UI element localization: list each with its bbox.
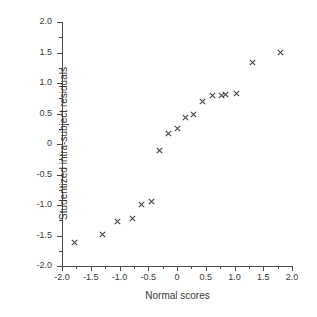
x-axis-minor-tick [278, 266, 279, 269]
data-point-marker [114, 218, 121, 225]
x-axis-minor-tick [134, 266, 135, 269]
y-tick-label: 2.0 [18, 16, 52, 27]
data-point-marker [156, 147, 163, 154]
x-axis-major-tick [263, 266, 264, 271]
data-point-marker [165, 130, 172, 137]
x-axis-minor-tick [191, 266, 192, 269]
x-axis-major-tick [292, 266, 293, 271]
data-point-marker [222, 91, 229, 98]
data-point-marker [71, 239, 78, 246]
x-axis-minor-tick [105, 266, 106, 269]
x-axis-major-tick [206, 266, 207, 271]
data-point-marker [138, 201, 145, 208]
x-axis-major-tick [177, 266, 178, 271]
x-axis-major-tick [91, 266, 92, 271]
x-tick-label: 1.0 [220, 272, 250, 283]
data-point-marker [209, 92, 216, 99]
x-tick-label: 0.5 [191, 272, 221, 283]
y-tick-label: 1.0 [18, 77, 52, 88]
plot-area [62, 22, 292, 266]
y-tick-label: -0.5 [18, 169, 52, 180]
data-point-marker [233, 90, 240, 97]
data-point-marker [148, 198, 155, 205]
x-tick-label: 1.5 [248, 272, 278, 283]
x-axis-title: Normal scores [62, 290, 293, 301]
x-tick-label: -2.0 [47, 272, 77, 283]
data-point-marker [199, 98, 206, 105]
x-axis-minor-tick [163, 266, 164, 269]
y-axis-title: Studentized intra-subject residuals [58, 19, 69, 269]
y-tick-label: -1.0 [18, 199, 52, 210]
x-axis-minor-tick [220, 266, 221, 269]
x-axis-major-tick [120, 266, 121, 271]
y-tick-label: -2.0 [18, 260, 52, 271]
x-tick-label: 0 [162, 272, 192, 283]
x-axis-major-tick [148, 266, 149, 271]
x-axis-minor-tick [249, 266, 250, 269]
data-point-marker [277, 49, 284, 56]
x-tick-label: -0.5 [133, 272, 163, 283]
data-point-marker [190, 111, 197, 118]
qq-plot-figure: -2.0-1.5-1.0-0.500.51.01.52.02.01.51.00.… [0, 0, 317, 317]
x-tick-label: -1.5 [76, 272, 106, 283]
data-point-marker [99, 231, 106, 238]
x-tick-label: -1.0 [105, 272, 135, 283]
data-point-marker [249, 59, 256, 66]
y-tick-label: -1.5 [18, 230, 52, 241]
data-point-marker [129, 215, 136, 222]
x-tick-label: 2.0 [277, 272, 307, 283]
y-tick-label: 0 [18, 138, 52, 149]
y-tick-label: 0.5 [18, 108, 52, 119]
x-axis-minor-tick [76, 266, 77, 269]
data-point-marker [182, 114, 189, 121]
y-tick-label: 1.5 [18, 47, 52, 58]
x-axis-major-tick [235, 266, 236, 271]
data-point-marker [174, 125, 181, 132]
